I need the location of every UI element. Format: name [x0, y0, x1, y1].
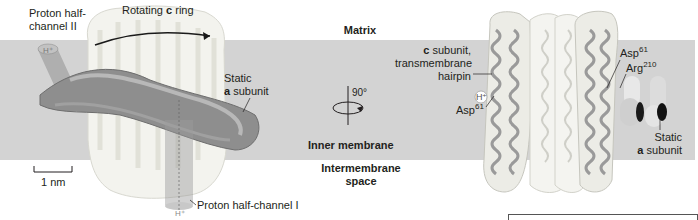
label-asp61-left: Asp61	[456, 104, 484, 117]
region-label-intermembrane-space: Intermembrane space	[306, 162, 416, 188]
h-plus-channel-1: H⁺	[175, 207, 185, 220]
rotation-angle-label: 90°	[352, 86, 367, 99]
label-rotating-c-ring: Rotating c ring	[122, 4, 194, 17]
label-arg210: Arg210	[626, 62, 656, 75]
scale-bar	[34, 166, 72, 172]
label-static-a-subunit-left: Static a subunit	[224, 72, 269, 98]
region-label-matrix: Matrix	[335, 24, 385, 37]
region-label-inner-membrane: Inner membrane	[308, 139, 394, 152]
label-static-a-subunit-right: Static a subunit	[620, 131, 682, 157]
label-proton-half-channel-2: Proton half- channel II	[29, 7, 86, 33]
h-plus-channel-2: H⁺	[43, 44, 53, 57]
scale-bar-label: 1 nm	[41, 176, 65, 189]
label-proton-half-channel-1: Proton half-channel I	[197, 199, 299, 212]
c-ring-side-view	[484, 11, 618, 192]
caption-box-outline	[508, 214, 698, 220]
label-c-subunit-hairpin: c subunit, transmembrane hairpin	[395, 44, 471, 83]
label-asp61-right: Asp61	[620, 47, 648, 60]
